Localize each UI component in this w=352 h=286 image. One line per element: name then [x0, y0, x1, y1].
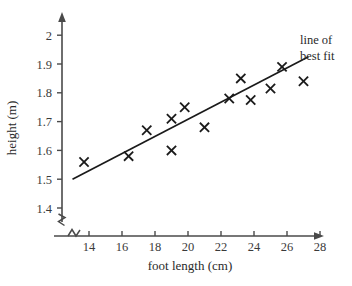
line-of-best-fit — [73, 57, 309, 179]
data-point — [299, 77, 308, 86]
y-axis-arrowhead — [58, 12, 66, 22]
y-tick-label: 2 — [46, 29, 52, 43]
data-point — [225, 94, 234, 103]
x-tick-label: 26 — [281, 240, 294, 254]
x-tick-label: 24 — [248, 240, 261, 254]
x-tick-label: 14 — [83, 240, 96, 254]
x-axis-group — [54, 230, 324, 240]
chart-canvas: 1.41.51.61.71.81.92 1416182022242628 foo… — [0, 0, 352, 286]
data-point — [124, 152, 133, 161]
y-axis-break-icon — [59, 214, 66, 226]
data-point — [266, 84, 275, 93]
x-axis-title: foot length (cm) — [148, 258, 232, 273]
x-axis-tick-labels: 1416182022242628 — [83, 240, 327, 254]
x-axis-break-icon — [68, 230, 80, 237]
data-point — [142, 126, 151, 135]
y-tick-label: 1.6 — [36, 144, 52, 158]
y-tick-label: 1.5 — [36, 173, 52, 187]
x-axis-arrowhead — [314, 232, 324, 240]
y-axis-title: height (m) — [4, 101, 19, 156]
data-point — [246, 95, 255, 104]
data-point — [180, 103, 189, 112]
y-axis-tick-labels: 1.41.51.61.71.81.92 — [36, 29, 52, 216]
y-tick-label: 1.9 — [36, 58, 52, 72]
x-tick-label: 20 — [182, 240, 195, 254]
y-tick-label: 1.8 — [36, 86, 52, 100]
data-point — [200, 123, 209, 132]
data-point — [79, 157, 88, 166]
fit-line-annotation-line1: line of — [300, 33, 333, 47]
fit-line-annotation-line2: best fit — [300, 49, 335, 63]
x-tick-label: 28 — [314, 240, 327, 254]
x-tick-label: 22 — [215, 240, 228, 254]
data-point-markers — [79, 62, 308, 166]
data-point — [236, 74, 245, 83]
y-axis-group — [57, 12, 66, 226]
data-point — [167, 114, 176, 123]
data-point — [167, 146, 176, 155]
scatter-chart-figure: 1.41.51.61.71.81.92 1416182022242628 foo… — [0, 0, 352, 286]
x-tick-label: 18 — [149, 240, 162, 254]
y-tick-label: 1.7 — [36, 115, 52, 129]
x-tick-label: 16 — [116, 240, 129, 254]
y-tick-label: 1.4 — [36, 202, 52, 216]
